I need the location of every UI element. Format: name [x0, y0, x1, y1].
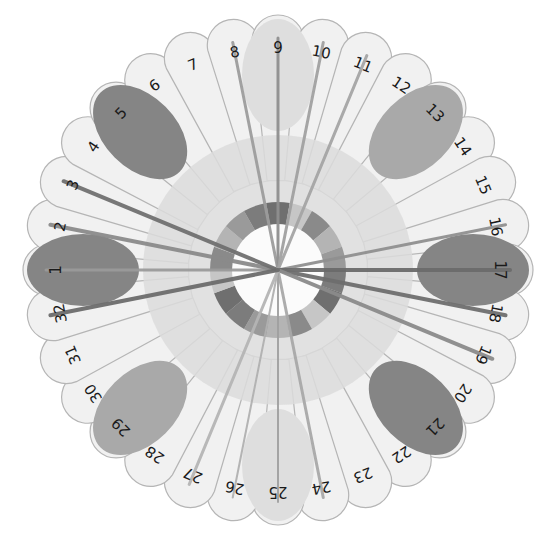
petal-label-26: 26 [224, 477, 246, 498]
petal-label-24: 24 [310, 477, 332, 498]
petal-label-1: 1 [47, 265, 65, 275]
petal-label-17: 17 [491, 260, 509, 279]
petal-label-18: 18 [485, 302, 506, 324]
petal-label-16: 16 [485, 216, 506, 238]
petal-label-25: 25 [268, 483, 287, 501]
radial-petal-diagram: 1234567891011121314151617181920212223242… [0, 0, 556, 540]
petal-label-32: 32 [50, 302, 71, 324]
petal-label-9: 9 [273, 39, 283, 57]
petal-label-10: 10 [310, 42, 332, 63]
